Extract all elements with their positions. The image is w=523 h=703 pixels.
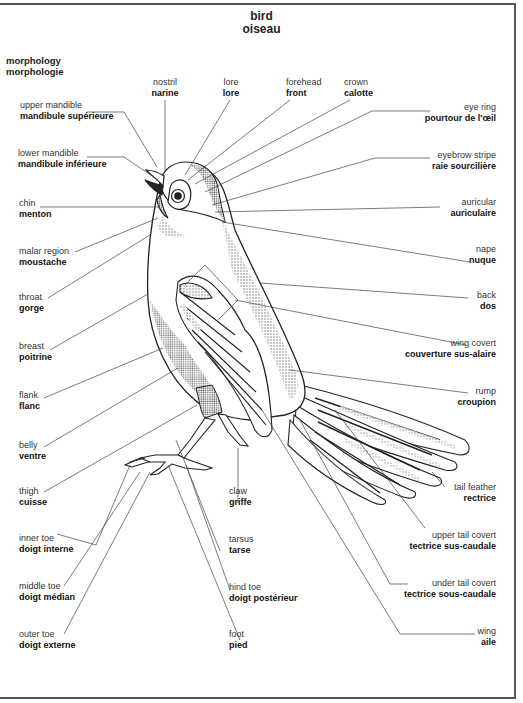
label-eyebrow-stripe: eyebrow stripe raie sourcilière — [432, 150, 496, 172]
label-inner-toe: inner toe doigt interne — [19, 533, 74, 555]
label-nostril: nostril narine — [148, 77, 182, 99]
label-upper-mandible: upper mandible mandibule supérieure — [20, 100, 114, 122]
tail-drawing — [288, 385, 469, 504]
label-upper-tail-covert: upper tail covert tectrice sus-caudale — [409, 530, 496, 552]
label-hind-toe: hind toe doigt postérieur — [229, 582, 298, 604]
label-breast: breast poitrine — [19, 341, 52, 363]
label-malar-region: malar region moustache — [19, 246, 69, 268]
label-wing: wing aile — [477, 626, 496, 648]
label-nape: nape nuque — [469, 244, 496, 266]
label-belly: belly ventre — [19, 440, 46, 462]
label-crown: crown calotte — [344, 77, 373, 99]
label-foot: foot pied — [229, 629, 248, 651]
label-back: back dos — [477, 290, 496, 312]
label-under-tail-covert: under tail covert tectrice sous-caudale — [404, 578, 496, 600]
label-flank: flank flanc — [19, 390, 40, 412]
label-tail-feather: tail feather rectrice — [454, 482, 496, 504]
label-outer-toe: outer toe doigt externe — [19, 629, 76, 651]
label-chin: chin menton — [19, 198, 52, 220]
label-eye-ring: eye ring pourtour de l'œil — [425, 102, 496, 124]
label-thigh: thigh cuisse — [19, 486, 47, 508]
label-throat: throat gorge — [19, 292, 44, 314]
label-middle-toe: middle toe doigt médian — [19, 581, 75, 603]
label-auricular: auricular auriculaire — [450, 197, 496, 219]
label-rump: rump croupion — [458, 386, 497, 408]
label-tarsus: tarsus tarse — [229, 534, 254, 556]
label-forehead: forehead front — [286, 77, 322, 99]
label-lore: lore lore — [216, 77, 246, 99]
label-lower-mandible: lower mandible mandibule inférieure — [18, 148, 107, 170]
label-wing-covert: wing covert couverture sus-alaire — [405, 338, 496, 360]
label-claw: claw griffe — [229, 486, 252, 508]
